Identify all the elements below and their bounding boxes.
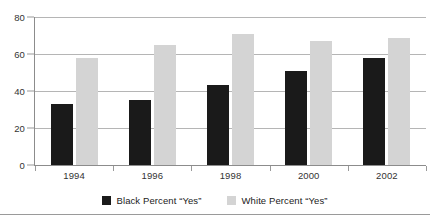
y-axis-tick-mark (27, 54, 34, 55)
bar-white-1998 (232, 34, 254, 165)
bar-black-2002 (363, 58, 385, 165)
bottom-divider (0, 214, 430, 215)
x-axis-tick-label: 1998 (220, 170, 242, 181)
bar-group (129, 17, 176, 165)
bar-group (207, 17, 254, 165)
legend-entry-white[interactable]: White Percent “Yes” (227, 195, 327, 206)
bar-white-2002 (388, 38, 410, 165)
bar-white-2000 (310, 41, 332, 165)
bar-chart-figure: 020406080 19941996199820002002 Black Per… (0, 0, 430, 223)
y-axis-tick-mark (27, 165, 34, 166)
bar-black-1994 (51, 104, 73, 165)
x-axis-tick-label: 1996 (142, 170, 164, 181)
legend-entry-black[interactable]: Black Percent “Yes” (102, 195, 201, 206)
legend-swatch-white-icon (227, 196, 236, 205)
x-axis-tick-label: 2002 (376, 170, 398, 181)
chart-legend: Black Percent “Yes”White Percent “Yes” (0, 193, 430, 207)
x-axis-tick-label: 2000 (298, 170, 320, 181)
x-axis-tick-mark (426, 166, 427, 171)
legend-swatch-black-icon (102, 196, 111, 205)
bar-group (363, 17, 410, 165)
y-axis-tick-label: 20 (14, 123, 25, 134)
y-axis-tick-label: 40 (14, 86, 25, 97)
x-axis-tick-label: 1994 (63, 170, 85, 181)
plot-area: 020406080 19941996199820002002 (0, 0, 430, 166)
y-axis-tick-label: 80 (14, 12, 25, 23)
y-axis-tick-mark (27, 128, 34, 129)
bars-container (35, 17, 426, 165)
legend-label: White Percent “Yes” (241, 195, 327, 206)
bar-black-1998 (207, 85, 229, 165)
y-axis-tick-mark (27, 17, 34, 18)
y-axis-tick-label: 0 (20, 160, 25, 171)
bar-white-1996 (154, 45, 176, 165)
y-axis-tick-mark (27, 91, 34, 92)
y-axis-labels: 020406080 (0, 0, 34, 166)
bar-group (285, 17, 332, 165)
legend-label: Black Percent “Yes” (116, 195, 201, 206)
y-axis-tick-label: 60 (14, 49, 25, 60)
bar-group (51, 17, 98, 165)
bar-black-2000 (285, 71, 307, 165)
x-axis-labels: 19941996199820002002 (35, 170, 426, 184)
bar-black-1996 (129, 100, 151, 165)
bar-white-1994 (76, 58, 98, 165)
